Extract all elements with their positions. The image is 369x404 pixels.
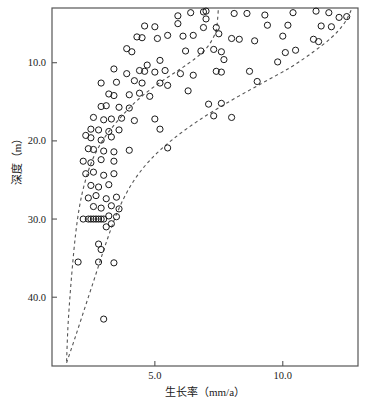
scatter-point [95,127,101,133]
scatter-point [290,10,296,16]
scatter-point [254,78,260,84]
scatter-point [131,117,137,123]
scatter-point [90,203,96,209]
scatter-point [75,259,81,265]
scatter-point [326,10,332,16]
scatter-point [211,46,217,52]
scatter-point [103,196,109,202]
axis-ticks [52,63,283,366]
scatter-point [218,49,224,55]
scatter-point [111,66,117,72]
scatter-point [101,172,107,178]
scatter-point [162,67,168,73]
scatter-point [205,101,211,107]
scatter-point [129,49,135,55]
scatter-point [157,126,163,132]
scatter-point [165,32,171,38]
scatter-point [318,23,324,29]
scatter-point [108,116,114,122]
scatter-point [152,24,158,30]
scatter-point [124,71,130,77]
scatter-point [152,116,158,122]
envelope-curves [67,8,352,363]
scatter-point [95,184,101,190]
scatter-point [83,171,89,177]
scatter-point [88,182,94,188]
scatter-point [85,195,91,201]
scatter-point [221,56,227,62]
scatter-point [147,93,153,99]
scatter-point [88,126,94,132]
plot-area-svg: 5.010.010.020.030.040.0 [0,0,369,404]
scatter-point [218,100,224,106]
scatter-point [180,33,186,39]
scatter-point [98,80,104,86]
scatter-point [98,205,104,211]
scatter-point [246,68,252,74]
scatter-point [93,193,99,199]
scatter-point [88,135,94,141]
scatter-point [106,213,112,219]
scatter-point [106,182,112,188]
scatter-point [190,72,196,78]
svg-text:40.0: 40.0 [28,292,46,303]
scatter-point [203,16,209,22]
scatter-point [175,21,181,27]
scatter-point [165,82,171,88]
scatter-point [285,22,291,28]
scatter-point [108,134,114,140]
scatter-point [116,127,122,133]
y-axis-title: 深度（m） [11,133,23,186]
scatter-point [165,145,171,151]
scatter-point [139,80,145,86]
scatter-point [313,8,319,14]
scatter-point [136,90,142,96]
scatter-point [108,203,114,209]
scatter-point [131,78,137,84]
scatter-point [80,158,86,164]
scatter-point [98,157,104,163]
scatter-point [113,79,119,85]
scatter-point [200,24,206,30]
scatter-point [142,23,148,29]
scatter-point [264,22,270,28]
scatter-point [236,36,242,42]
scatter-point [152,69,158,75]
svg-text:10.0: 10.0 [28,57,46,68]
scatter-point [95,259,101,265]
scatter-point [126,92,132,98]
scatter-point [229,114,235,120]
scatter-point [262,12,268,18]
scatter-point [157,80,163,86]
scatter-point [144,62,150,68]
scatter-point [344,14,350,20]
scatter-point [103,224,109,230]
scatter-point [113,194,119,200]
scatter-point [316,39,322,45]
upper-envelope-curve [67,8,352,363]
svg-text:20.0: 20.0 [28,135,46,146]
scatter-point [328,24,334,30]
scatter-point [336,14,342,20]
scatter-point [275,59,281,65]
scatter-point [190,32,196,38]
scatter-point [116,104,122,110]
scatter-point [111,149,117,155]
scatter-point [231,10,237,16]
scatter-point [216,31,222,37]
scatter-point [101,316,107,322]
scatter-point [111,158,117,164]
scatter-point [111,260,117,266]
plot-frame [52,8,358,366]
scatter-point [244,10,250,16]
scatter-point [182,48,188,54]
y-axis-title-wrap: 深度（m） [7,119,25,199]
scatter-point [157,57,163,63]
scatter-point [188,10,194,16]
scatter-point [126,147,132,153]
scatter-point [90,169,96,175]
svg-text:5.0: 5.0 [148,370,161,381]
scatter-point [175,13,181,19]
scatter-point [111,171,117,177]
scatter-chart: 5.010.010.020.030.040.0 深度（m） 生长率（mm/a） [0,0,369,404]
